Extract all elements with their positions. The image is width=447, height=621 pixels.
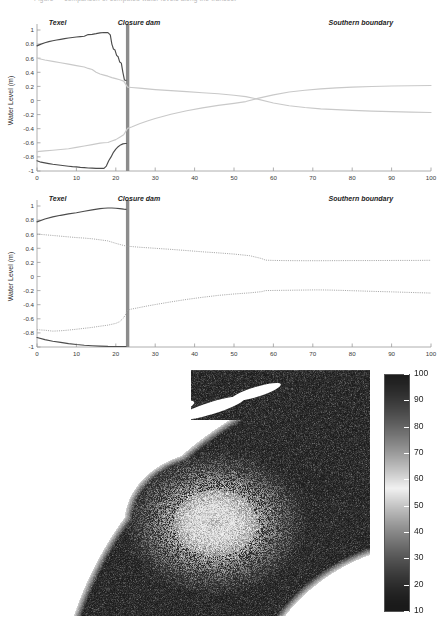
y-tick-label: -1: [28, 343, 34, 350]
y-tick-label: -0.4: [23, 301, 34, 308]
colorbar-tick: [404, 479, 409, 480]
chart-axes: [37, 24, 431, 171]
x-tick-label: 100: [426, 350, 437, 357]
colorbar-tick: [404, 585, 409, 586]
colorbar-tick-label: 20: [414, 579, 423, 589]
colorbar-tick-label: 50: [414, 500, 423, 510]
chart-axes: [37, 200, 431, 347]
y-tick-label: -0.8: [23, 153, 34, 160]
x-tick-label: 40: [191, 174, 198, 181]
chart-panel-bottom: 0102030405060708090100-1-0.8-0.6-0.4-0.2…: [0, 184, 447, 360]
chart-svg: 0102030405060708090100-1-0.8-0.6-0.4-0.2…: [0, 8, 447, 184]
closure-dam-bar: [126, 200, 129, 347]
x-tick-label: 60: [270, 350, 277, 357]
y-axis-title: Water Level (m): [7, 252, 15, 302]
series-line: [37, 208, 126, 222]
colorbar-tick-label: 10: [414, 605, 423, 615]
map-panel: 102030405060708090100: [0, 366, 447, 621]
y-tick-label: -0.6: [23, 139, 34, 146]
y-tick-label: -0.4: [23, 125, 34, 132]
y-axis-title: Water Level (m): [7, 76, 15, 126]
annotation-label: Southern boundary: [329, 19, 395, 27]
series-line: [37, 32, 126, 80]
annotation-label: Texel: [49, 19, 68, 26]
series-line: [37, 144, 126, 169]
y-tick-label: 0.4: [25, 69, 34, 76]
colorbar-tick: [404, 374, 409, 375]
colorbar-tick: [404, 611, 409, 612]
map-field-image: [60, 370, 370, 616]
y-tick-label: -0.8: [23, 329, 34, 336]
x-tick-label: 80: [349, 350, 356, 357]
y-tick-label: 0: [31, 97, 35, 104]
colorbar-tick: [404, 400, 409, 401]
colorbar-tick-label: 100: [414, 368, 428, 378]
y-tick-label: -0.2: [23, 287, 34, 294]
x-tick-label: 30: [152, 174, 159, 181]
x-tick-label: 60: [270, 174, 277, 181]
colorbar-tick: [404, 427, 409, 428]
y-tick-label: -0.6: [23, 315, 34, 322]
y-tick-label: 1: [31, 202, 35, 209]
annotation-label: Closure dam: [118, 195, 160, 202]
closure-dam-bar: [126, 24, 129, 171]
x-tick-label: 50: [231, 350, 238, 357]
clipped-caption-line: Figure — comparison of computed water le…: [0, 0, 447, 7]
y-tick-label: 0.8: [25, 216, 34, 223]
colorbar-gradient: [384, 374, 410, 612]
annotation-label: Closure dam: [118, 19, 160, 26]
y-tick-label: 0.6: [25, 231, 34, 238]
y-tick-label: 0.8: [25, 40, 34, 47]
x-tick-label: 70: [309, 350, 316, 357]
x-tick-label: 70: [309, 174, 316, 181]
x-tick-label: 90: [388, 174, 395, 181]
y-tick-label: 0.4: [25, 245, 34, 252]
annotation-label: Texel: [49, 195, 68, 202]
y-tick-label: -0.2: [23, 111, 34, 118]
y-tick-label: -1: [28, 167, 34, 174]
clipped-caption-text: Figure — comparison of computed water le…: [34, 0, 447, 2]
x-tick-label: 0: [35, 350, 39, 357]
chart-svg: 0102030405060708090100-1-0.8-0.6-0.4-0.2…: [0, 184, 447, 360]
colorbar-tick-label: 60: [414, 473, 423, 483]
colorbar-tick: [404, 506, 409, 507]
x-tick-label: 40: [191, 350, 198, 357]
y-tick-label: 0.2: [25, 259, 34, 266]
x-tick-label: 90: [388, 350, 395, 357]
x-tick-label: 10: [73, 350, 80, 357]
colorbar-tick-label: 40: [414, 526, 423, 536]
x-tick-label: 30: [152, 350, 159, 357]
series-line: [37, 234, 431, 261]
colorbar-tick-label: 90: [414, 394, 423, 404]
chart-panel-top: 0102030405060708090100-1-0.8-0.6-0.4-0.2…: [0, 8, 447, 184]
colorbar-tick: [404, 532, 409, 533]
colorbar-tick: [404, 558, 409, 559]
annotation-label: Southern boundary: [329, 195, 395, 203]
y-tick-label: 1: [31, 26, 35, 33]
x-tick-label: 80: [349, 174, 356, 181]
colorbar-tick-label: 80: [414, 421, 423, 431]
y-tick-label: 0.2: [25, 83, 34, 90]
x-tick-label: 50: [231, 174, 238, 181]
series-line: [37, 337, 126, 346]
x-tick-label: 20: [112, 174, 119, 181]
colorbar-tick-label: 70: [414, 447, 423, 457]
x-tick-label: 10: [73, 174, 80, 181]
x-tick-label: 0: [35, 174, 39, 181]
series-line: [37, 58, 431, 112]
x-tick-label: 20: [112, 350, 119, 357]
colorbar-tick: [404, 453, 409, 454]
colorbar-tick-label: 30: [414, 552, 423, 562]
x-tick-label: 100: [426, 174, 437, 181]
y-tick-label: 0.6: [25, 55, 34, 62]
y-tick-label: 0: [31, 273, 35, 280]
series-line: [37, 290, 431, 331]
